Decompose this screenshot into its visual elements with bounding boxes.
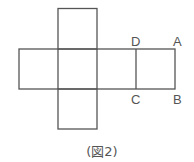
label-b: B xyxy=(173,92,182,107)
top-face xyxy=(58,9,97,50)
label-a: A xyxy=(173,34,182,49)
cube-net-diagram: D A C B (図2) xyxy=(0,0,194,162)
bottom-face xyxy=(58,89,97,129)
label-d: D xyxy=(131,34,140,49)
label-c: C xyxy=(131,92,140,107)
figure-caption: (図2) xyxy=(86,144,117,159)
